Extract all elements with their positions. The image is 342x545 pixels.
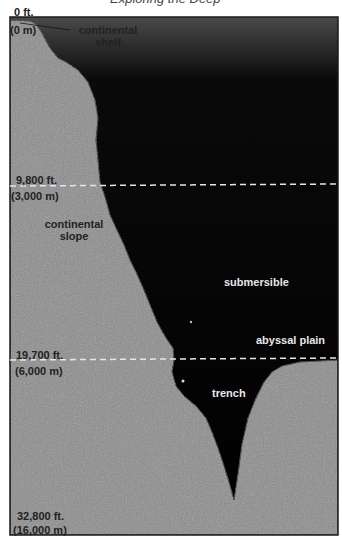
- depth-6000-meters: (6,000 m): [15, 365, 63, 377]
- depth-0-meters: (0 m): [10, 24, 36, 36]
- ocean-profile-diagram: [0, 0, 342, 545]
- label-continental-shelf: continental shelf: [78, 24, 138, 48]
- label-continental-shelf-line2: shelf: [78, 36, 138, 48]
- label-submersible: submersible: [224, 276, 289, 288]
- depth-0-feet: 0 ft.: [14, 6, 34, 18]
- label-continental-shelf-line1: continental: [78, 24, 138, 36]
- label-trench: trench: [212, 387, 246, 399]
- label-continental-slope: continental slope: [42, 218, 106, 242]
- label-continental-slope-line1: continental: [42, 218, 106, 230]
- depth-3000-meters: (3,000 m): [11, 190, 59, 202]
- depth-16000-meters: (16,000 m): [13, 524, 67, 536]
- submersible-marker: [190, 321, 192, 323]
- depth-32800-feet: 32,800 ft.: [17, 510, 64, 522]
- label-abyssal-plain: abyssal plain: [256, 334, 325, 346]
- trench-marker: [182, 380, 185, 383]
- depth-19700-feet: 19,700 ft.: [16, 349, 63, 361]
- depth-9800-feet: 9,800 ft.: [16, 174, 57, 186]
- label-continental-slope-line2: slope: [42, 230, 106, 242]
